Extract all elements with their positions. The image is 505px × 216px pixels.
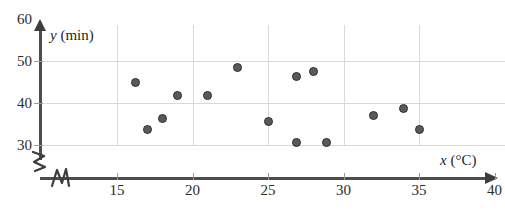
x-axis-tick-label: 35 <box>399 183 439 198</box>
data-point <box>173 91 182 100</box>
data-point <box>131 78 140 87</box>
y-axis-tick-label: 60 <box>0 12 32 27</box>
data-point <box>203 91 212 100</box>
y-axis-tick <box>34 61 43 62</box>
y-axis-tick-label: 30 <box>0 138 32 153</box>
x-axis-tick-label: 15 <box>97 183 137 198</box>
x-axis-tick-label: 20 <box>173 183 213 198</box>
x-axis-tick-label: 25 <box>248 183 288 198</box>
y-axis-title-unit: (min) <box>60 27 93 43</box>
y-axis-arrow-icon <box>34 19 46 31</box>
y-axis-title: y (min) <box>50 27 94 44</box>
gridline-horizontal <box>41 145 505 146</box>
y-axis-line <box>39 28 42 160</box>
y-axis-tick <box>34 145 43 146</box>
x-axis-tick <box>344 173 345 180</box>
gridline-vertical <box>344 25 345 145</box>
x-axis-tick <box>193 173 194 180</box>
x-axis-tick <box>495 173 496 180</box>
gridline-horizontal <box>41 61 505 62</box>
x-axis-title-var: x <box>440 152 447 168</box>
data-point <box>143 125 152 134</box>
x-axis-tick-label: 40 <box>475 183 505 198</box>
plot-area <box>41 25 505 145</box>
y-axis-tick <box>34 103 43 104</box>
data-point <box>322 138 331 147</box>
scatter-chart: y (min) x (°C) 15202530354030405060 <box>0 0 505 216</box>
x-axis-tick <box>268 173 269 180</box>
y-axis-break-icon <box>31 150 51 172</box>
x-axis-break-icon <box>50 166 72 188</box>
data-point <box>292 138 301 147</box>
x-axis-title: x (°C) <box>440 152 476 169</box>
x-axis-line <box>40 177 490 180</box>
x-axis-tick <box>117 173 118 180</box>
y-axis-tick-label: 40 <box>0 96 32 111</box>
gridline-horizontal <box>41 103 505 104</box>
x-axis-title-unit: (°C) <box>450 152 476 168</box>
data-point <box>264 117 273 126</box>
x-axis-tick-label: 30 <box>324 183 364 198</box>
gridline-vertical <box>193 25 194 145</box>
data-point <box>415 125 424 134</box>
x-axis-tick <box>419 173 420 180</box>
data-point <box>158 114 167 123</box>
gridline-vertical <box>117 25 118 145</box>
y-axis-tick-label: 50 <box>0 54 32 69</box>
y-axis-title-var: y <box>50 27 57 43</box>
gridline-vertical <box>268 25 269 145</box>
